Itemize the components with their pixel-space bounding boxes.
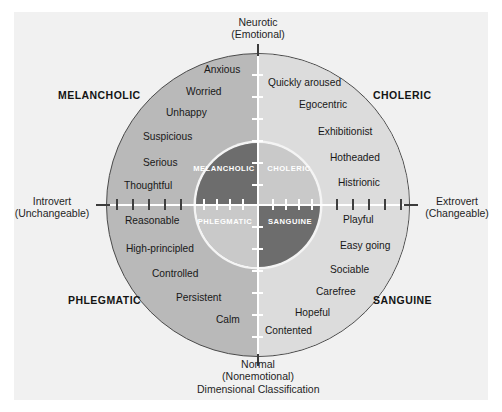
- axis-label-top-line1: Neurotic: [207, 16, 309, 28]
- inner-quadrant-choleric: [258, 143, 320, 205]
- axis-label-bottom: Normal (Nonemotional) Dimensional Classi…: [197, 358, 319, 395]
- horizontal-axis-stub-left: [96, 204, 110, 206]
- figure-canvas: Neurotic (Emotional) Normal (Nonemotiona…: [0, 0, 502, 412]
- axis-tick: [252, 118, 263, 120]
- quadrant-label-sanguine: SANGUINE: [373, 294, 432, 306]
- trait-word: Egocentric: [299, 99, 347, 111]
- inner-quadrant-sanguine: [258, 205, 320, 267]
- axis-tick: [252, 140, 263, 142]
- axis-label-top: Neurotic (Emotional): [207, 16, 309, 41]
- trait-word: Anxious: [204, 64, 240, 76]
- axis-label-bottom-line2: (Nonemotional): [197, 370, 319, 382]
- axis-tick: [252, 248, 263, 250]
- axis-tick: [242, 199, 244, 210]
- axis-label-right-line2: (Changeable): [414, 207, 500, 219]
- figure-caption: Dimensional Classification: [197, 383, 319, 395]
- axis-tick: [298, 199, 300, 210]
- trait-word: Suspicious: [143, 131, 192, 143]
- inner-label-melancholic: MELANCHOLIC: [192, 165, 256, 174]
- trait-word: Quickly aroused: [268, 77, 341, 89]
- trait-word: Reasonable: [125, 215, 179, 227]
- axis-tick: [368, 199, 370, 210]
- axis-label-right: Extrovert (Changeable): [414, 195, 500, 220]
- axis-tick: [180, 199, 182, 210]
- axis-label-top-line2: (Emotional): [207, 28, 309, 40]
- inner-quadrant-phlegmatic: [196, 205, 258, 267]
- quadrant-label-melancholic: MELANCHOLIC: [58, 89, 141, 101]
- axis-tick: [252, 314, 263, 316]
- inner-label-choleric: CHOLERIC: [262, 165, 316, 174]
- axis-tick: [336, 199, 338, 210]
- axis-tick: [132, 199, 134, 210]
- axis-tick: [272, 199, 274, 210]
- axis-tick: [384, 199, 386, 210]
- axis-tick: [252, 336, 263, 338]
- horizontal-axis: [106, 204, 410, 206]
- axis-label-right-line1: Extrovert: [414, 195, 500, 207]
- axis-label-left-line2: (Unchangeable): [6, 207, 98, 219]
- trait-word: Serious: [143, 157, 178, 169]
- trait-word: Hotheaded: [330, 152, 380, 164]
- trait-word: Calm: [216, 314, 240, 326]
- trait-word: Exhibitionist: [318, 126, 372, 138]
- axis-tick: [252, 96, 263, 98]
- axis-tick: [252, 184, 263, 186]
- axis-tick: [148, 199, 150, 210]
- inner-label-phlegmatic: PHLEGMATIC: [194, 218, 256, 227]
- axis-tick: [203, 199, 205, 210]
- trait-word: Hopeful: [295, 307, 330, 319]
- axis-tick: [116, 199, 118, 210]
- trait-word: Contented: [265, 325, 312, 337]
- trait-word: Sociable: [330, 264, 369, 276]
- quadrant-label-phlegmatic: PHLEGMATIC: [68, 294, 141, 306]
- trait-word: Persistent: [176, 292, 221, 304]
- axis-label-bottom-line1: Normal: [197, 358, 319, 370]
- axis-tick: [311, 199, 313, 210]
- trait-word: Worried: [186, 86, 221, 98]
- trait-word: Unhappy: [166, 107, 207, 119]
- trait-word: Playful: [343, 214, 374, 226]
- trait-word: Controlled: [152, 268, 198, 280]
- trait-word: Easy going: [340, 240, 390, 252]
- trait-word: Carefree: [316, 286, 356, 298]
- axis-tick: [352, 199, 354, 210]
- axis-tick: [252, 270, 263, 272]
- axis-label-left-line1: Introvert: [6, 195, 98, 207]
- axis-tick: [229, 199, 231, 210]
- axis-tick: [285, 199, 287, 210]
- quadrant-label-choleric: CHOLERIC: [373, 89, 431, 101]
- trait-word: High-principled: [126, 243, 194, 255]
- axis-tick: [252, 74, 263, 76]
- vertical-axis-stub-top: [257, 44, 259, 56]
- inner-label-sanguine: SANGUINE: [262, 218, 318, 227]
- trait-word: Thoughtful: [124, 180, 172, 192]
- axis-tick: [252, 292, 263, 294]
- axis-tick: [400, 199, 402, 210]
- axis-tick: [164, 199, 166, 210]
- axis-tick: [216, 199, 218, 210]
- inner-quadrant-melancholic: [196, 143, 258, 205]
- trait-word: Histrionic: [338, 177, 380, 189]
- axis-label-left: Introvert (Unchangeable): [6, 195, 98, 220]
